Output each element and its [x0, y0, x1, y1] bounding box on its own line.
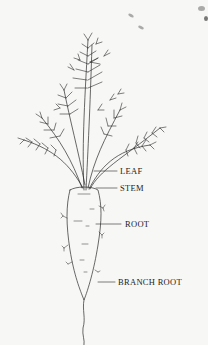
label-root: ROOT	[125, 219, 149, 229]
label-branch-root: BRANCH ROOT	[118, 277, 182, 287]
carrot-illustration	[0, 0, 208, 345]
label-leaf: LEAF	[120, 166, 142, 176]
root-outline	[67, 187, 101, 300]
paper-smudge	[204, 16, 208, 21]
taproot	[83, 300, 84, 345]
paper-smudge	[198, 6, 205, 11]
root-markings	[74, 194, 94, 272]
leader-lines	[94, 171, 121, 282]
carrot-diagram: LEAF STEM ROOT BRANCH ROOT	[0, 0, 208, 345]
branch-roots	[61, 205, 105, 272]
label-stem: STEM	[120, 183, 144, 193]
